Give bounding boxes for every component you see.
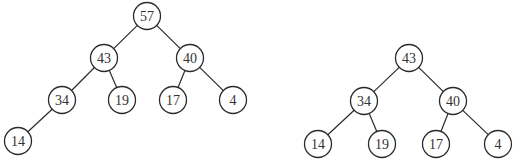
node-label: 17 — [429, 137, 443, 152]
tree-edges — [28, 25, 488, 134]
tree-node: 57 — [134, 3, 161, 30]
tree-node: 40 — [440, 88, 467, 115]
tree-node: 14 — [5, 128, 32, 155]
tree-edge — [109, 70, 116, 87]
tree-node: 19 — [109, 87, 136, 114]
node-label: 14 — [11, 134, 25, 149]
tree-edge — [369, 113, 377, 131]
tree-edge — [328, 110, 354, 135]
tree-edge — [441, 114, 448, 132]
tree-node: 40 — [177, 45, 204, 72]
node-label: 40 — [446, 94, 460, 109]
tree-node: 34 — [49, 87, 76, 114]
tree-edge — [114, 25, 138, 48]
tree-node: 4 — [485, 131, 512, 158]
node-label: 34 — [357, 94, 371, 109]
node-label: 19 — [115, 93, 129, 108]
node-label: 34 — [55, 93, 69, 108]
tree-edge — [178, 71, 185, 88]
heap-diagram: 5743403419174144334401419174 — [0, 0, 514, 167]
tree-edge — [200, 67, 224, 90]
node-label: 17 — [166, 93, 180, 108]
tree-node: 14 — [305, 131, 332, 158]
tree-node: 43 — [396, 45, 423, 72]
node-label: 40 — [183, 51, 197, 66]
tree-edge — [72, 68, 95, 91]
tree-edge — [419, 67, 444, 91]
tree-node: 43 — [91, 45, 118, 72]
tree-edge — [463, 110, 488, 134]
node-label: 4 — [495, 137, 502, 152]
node-label: 43 — [402, 51, 416, 66]
node-label: 4 — [230, 93, 237, 108]
tree-edge — [374, 67, 399, 91]
tree-node: 34 — [351, 88, 378, 115]
tree-node: 17 — [423, 131, 450, 158]
tree-node: 17 — [160, 87, 187, 114]
node-label: 57 — [140, 9, 154, 24]
tree-edge — [157, 25, 181, 48]
tree-node: 4 — [220, 87, 247, 114]
tree-edge — [28, 109, 52, 132]
node-label: 19 — [375, 137, 389, 152]
node-label: 14 — [311, 137, 325, 152]
tree-nodes: 5743403419174144334401419174 — [5, 3, 512, 158]
node-label: 43 — [97, 51, 111, 66]
tree-node: 19 — [369, 131, 396, 158]
